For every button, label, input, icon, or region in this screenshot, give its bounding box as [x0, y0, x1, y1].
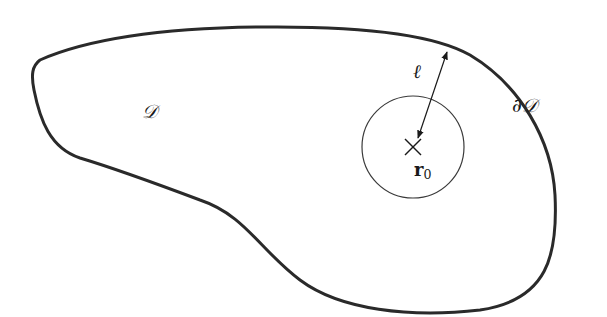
distance-arrow: [418, 52, 447, 138]
distance-label: ℓ: [413, 62, 421, 81]
diagram-canvas: [0, 0, 607, 317]
region-label: 𝒟: [142, 102, 157, 121]
boundary-label: ∂𝒟: [512, 96, 537, 115]
point-label-subscript: 0: [423, 167, 431, 182]
point-label: r0: [414, 161, 432, 182]
point-marker-x-icon: [405, 139, 421, 155]
region-boundary: [32, 27, 555, 313]
